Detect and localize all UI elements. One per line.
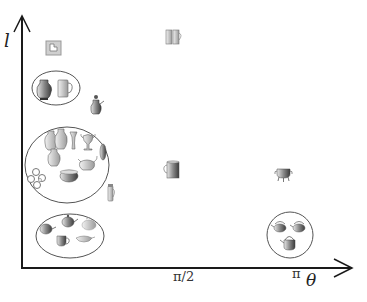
- square-icon: [46, 41, 61, 55]
- diagram-canvas: [0, 0, 367, 302]
- y-axis: [14, 16, 30, 268]
- amphora-icon: [37, 80, 52, 100]
- tick-pi: π: [292, 266, 301, 281]
- teapots-cluster: [36, 214, 104, 258]
- mug-icon: [58, 80, 72, 97]
- double-cup-icon: [166, 30, 181, 44]
- large-cluster: [25, 127, 109, 203]
- tick-pi-half: π/2: [173, 269, 194, 284]
- top-left-cluster: [32, 71, 80, 105]
- cauldron-icon: [275, 169, 293, 182]
- thermos-icon: [108, 184, 115, 201]
- y-axis-label: l: [4, 30, 10, 51]
- center-mug-icon: [164, 161, 179, 178]
- coffee-pot-icon: [91, 95, 104, 114]
- x-axis-label: θ: [306, 270, 316, 290]
- kettles-cluster: [267, 212, 313, 258]
- rings-icon: [28, 169, 46, 189]
